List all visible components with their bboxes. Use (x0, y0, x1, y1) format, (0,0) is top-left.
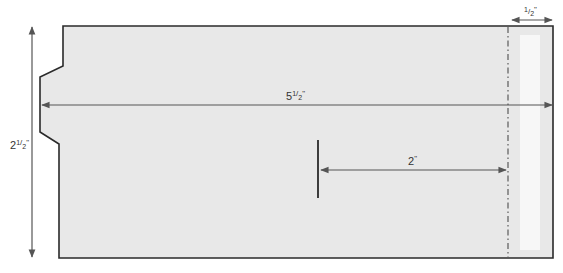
adhesive-strip (520, 35, 540, 250)
strip-width-label: 1/2" (524, 5, 537, 17)
envelope-diagram: 51/2" 21/2" 1/2" 2" (0, 0, 563, 273)
envelope-outline (40, 26, 553, 258)
height-label: 21/2" (10, 138, 29, 151)
